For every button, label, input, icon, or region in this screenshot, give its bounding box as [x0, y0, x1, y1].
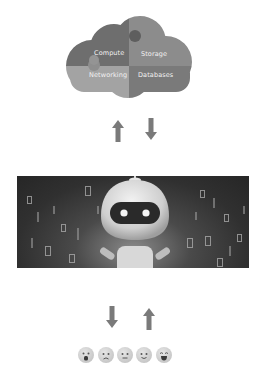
arrow-up-icon [143, 308, 155, 330]
cloud-label-compute: Compute [94, 49, 124, 57]
slight-smile-face-icon [136, 347, 152, 363]
cloud-icon [62, 14, 196, 102]
robot-banner-image [17, 176, 249, 268]
neutral-face-icon [117, 347, 133, 363]
sad-face-icon [98, 347, 114, 363]
arrow-down-icon [145, 118, 157, 140]
robot-icon [95, 176, 175, 268]
cloud-label-networking: Networking [89, 71, 127, 79]
arrow-up-icon [112, 120, 124, 142]
shocked-face-icon [78, 347, 94, 363]
cloud-label-storage: Storage [141, 50, 167, 58]
laughing-face-icon [156, 347, 172, 363]
cloud-services-diagram: Compute Storage Networking Databases [62, 14, 196, 102]
cloud-label-databases: Databases [138, 71, 173, 79]
arrow-down-icon [106, 306, 118, 328]
